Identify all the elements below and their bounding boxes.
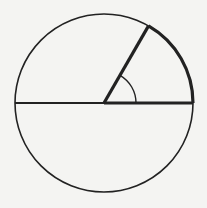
circle-diagram [0, 0, 207, 208]
